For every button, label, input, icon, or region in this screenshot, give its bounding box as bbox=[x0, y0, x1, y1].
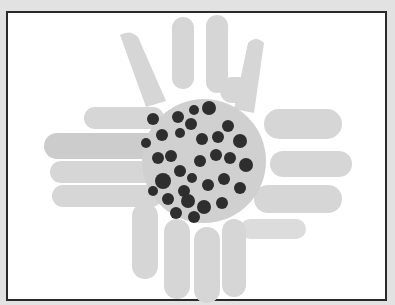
picture-frame bbox=[6, 11, 387, 301]
handprint-sunflower-artwork bbox=[8, 13, 389, 303]
